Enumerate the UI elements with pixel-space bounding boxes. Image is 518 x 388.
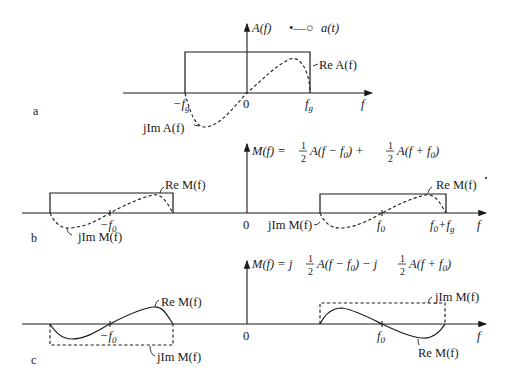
panel-b: M(f) = 1 2 A(f − f0) + 1 2 A(f + f0) Re … bbox=[22, 140, 487, 245]
im-label: jIm A(f) bbox=[142, 121, 184, 135]
panel-a: A(f) •—○ a(t) Re A(f) jIm A(f) −fg 0 fg … bbox=[33, 21, 372, 135]
panel-label: b bbox=[31, 231, 37, 245]
svg-text:A(f + f0): A(f + f0) bbox=[408, 257, 451, 273]
x-axis-label: f bbox=[477, 218, 482, 232]
panel-label: a bbox=[33, 104, 39, 118]
re-label-right: Re M(f) bbox=[418, 346, 459, 360]
tick-pos-fg: fg bbox=[305, 97, 313, 113]
svg-text:1: 1 bbox=[308, 253, 313, 264]
real-rect-left bbox=[50, 193, 173, 213]
svg-text:1: 1 bbox=[400, 253, 405, 264]
x-axis-label: f bbox=[477, 329, 482, 343]
leader-im-right bbox=[314, 222, 320, 225]
svg-text:M(f) = j: M(f) = j bbox=[251, 257, 293, 271]
leader-im bbox=[194, 125, 199, 126]
svg-text:M(f) =: M(f) = bbox=[251, 144, 286, 158]
tick-zero: 0 bbox=[243, 97, 249, 111]
leader-re-right bbox=[428, 187, 432, 193]
svg-text:2: 2 bbox=[400, 266, 405, 277]
leader-im-left bbox=[67, 228, 72, 235]
svg-text:2: 2 bbox=[388, 153, 393, 164]
im-label-right: jIm M(f) bbox=[267, 218, 312, 232]
panel-c: M(f) = j 1 2 A(f − f0) − j 1 2 A(f + f0)… bbox=[22, 253, 486, 367]
re-label-left: Re M(f) bbox=[161, 295, 202, 309]
tick-label-zero: 0 bbox=[243, 329, 249, 343]
re-label-right: Re M(f) bbox=[436, 178, 477, 192]
svg-text:2: 2 bbox=[301, 153, 306, 164]
im-label-left: jIm M(f) bbox=[156, 350, 201, 364]
time-signal-label: a(t) bbox=[321, 21, 339, 35]
tick-neg-fg: −fg bbox=[173, 97, 190, 113]
svg-text:A(f + f0): A(f + f0) bbox=[396, 144, 439, 160]
leader-re-right bbox=[418, 339, 419, 345]
leader-re-left bbox=[155, 300, 159, 306]
svg-text:1: 1 bbox=[301, 140, 306, 151]
svg-text:A(f − f0) +: A(f − f0) + bbox=[309, 144, 364, 160]
x-axis-label: f bbox=[361, 97, 366, 111]
correspondence-symbol: •—○ bbox=[289, 21, 313, 35]
im-label-right: jIm M(f) bbox=[434, 290, 479, 304]
tick-label-pos-f0: f0 bbox=[377, 329, 385, 345]
equation-b: M(f) = 1 2 A(f − f0) + 1 2 A(f + f0) bbox=[251, 140, 439, 164]
imag-rect-right bbox=[320, 303, 445, 324]
panel-label: c bbox=[31, 353, 36, 367]
tick-label-pos-f0: f0 bbox=[377, 218, 385, 234]
leader-re bbox=[313, 64, 318, 66]
re-label-left: Re M(f) bbox=[165, 178, 206, 192]
real-rect-right bbox=[320, 194, 446, 213]
leader-im-left bbox=[150, 346, 155, 356]
leader-re-left bbox=[160, 187, 164, 193]
tick-label-neg-f0: −f0 bbox=[100, 329, 117, 345]
svg-text:A(f − f0) − j: A(f − f0) − j bbox=[316, 257, 378, 273]
re-label: Re A(f) bbox=[319, 58, 357, 72]
tick-label-f0-plus-fg: f0+fg bbox=[430, 218, 455, 234]
tick-label-neg-f0: −f0 bbox=[100, 218, 117, 234]
modulation-spectrum-diagram: A(f) •—○ a(t) Re A(f) jIm A(f) −fg 0 fg … bbox=[0, 0, 518, 388]
svg-text:2: 2 bbox=[308, 266, 313, 277]
svg-text:1: 1 bbox=[388, 140, 393, 151]
stray-dot bbox=[485, 177, 487, 179]
tick-label-zero: 0 bbox=[243, 218, 249, 232]
leader-im-right bbox=[428, 297, 432, 303]
y-axis-label: A(f) bbox=[251, 21, 271, 35]
equation-c: M(f) = j 1 2 A(f − f0) − j 1 2 A(f + f0) bbox=[251, 253, 451, 277]
